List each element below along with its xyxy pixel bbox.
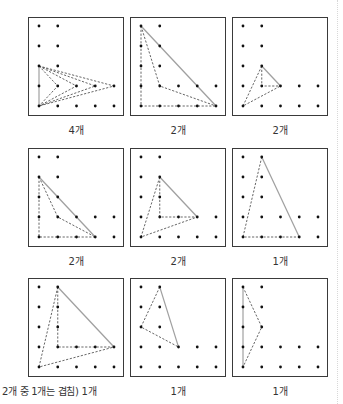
grid-dot	[260, 155, 263, 158]
grid-dot	[139, 175, 142, 178]
grid-panel-2	[130, 17, 226, 116]
grid-svg	[232, 17, 328, 116]
dashed-triangle-edges	[141, 287, 179, 347]
grid-panel-4	[28, 148, 124, 247]
grid-dot	[177, 365, 180, 368]
grid-dot	[260, 84, 263, 87]
grid-dot	[158, 195, 161, 198]
grid-dot	[37, 305, 40, 308]
dashed-triangle-edges	[141, 177, 197, 237]
grid-dot	[93, 104, 96, 107]
grid-dot	[158, 155, 161, 158]
grid-dot	[112, 235, 115, 238]
grid-dot	[297, 345, 300, 348]
grid-dot	[93, 345, 96, 348]
grid-dot	[112, 365, 115, 368]
grid-dot	[279, 104, 282, 107]
grid-dot	[297, 215, 300, 218]
grid-dot	[260, 285, 263, 288]
grid-dot	[241, 195, 244, 198]
panel-label-7: 2개 중 1개는 겹침) 1개	[2, 383, 96, 398]
grid-dot	[260, 305, 263, 308]
grid-dot	[279, 345, 282, 348]
grid-dot	[158, 84, 161, 87]
grid-dot	[93, 365, 96, 368]
grid-dot	[139, 44, 142, 47]
grid-dot	[316, 104, 319, 107]
grid-dot	[56, 305, 59, 308]
grid-dot	[195, 215, 198, 218]
grid-dot	[37, 24, 40, 27]
grid-dot	[241, 175, 244, 178]
grid-dot	[195, 104, 198, 107]
grid-dot	[56, 24, 59, 27]
grid-dot	[316, 215, 319, 218]
dashed-triangle-edges	[243, 157, 299, 237]
grid-dot	[214, 84, 217, 87]
grid-dot	[177, 235, 180, 238]
grid-dot	[112, 84, 115, 87]
grid-dot	[75, 345, 78, 348]
grid-dot	[260, 64, 263, 67]
grid-dot	[56, 44, 59, 47]
grid-dot	[260, 104, 263, 107]
grid-dot	[93, 84, 96, 87]
grid-dot	[279, 235, 282, 238]
grid-dot	[158, 345, 161, 348]
grid-dot	[158, 64, 161, 67]
grid-dot	[139, 84, 142, 87]
grid-dot	[56, 285, 59, 288]
grid-dot	[279, 365, 282, 368]
grid-dot	[37, 215, 40, 218]
panel-label-6: 1개	[273, 253, 288, 268]
grid-dot	[279, 215, 282, 218]
grid-dot	[139, 365, 142, 368]
grid-dot	[56, 345, 59, 348]
grid-dot	[75, 235, 78, 238]
grid-dot	[139, 195, 142, 198]
grid-dot	[56, 84, 59, 87]
grid-dot	[75, 215, 78, 218]
grid-dot	[260, 365, 263, 368]
grid-svg	[232, 278, 328, 377]
grid-dot	[241, 24, 244, 27]
grid-dot	[75, 84, 78, 87]
grid-dot	[139, 215, 142, 218]
grid-dot	[158, 305, 161, 308]
grid-dot	[158, 104, 161, 107]
solid-segment	[57, 287, 113, 347]
grid-dot	[279, 84, 282, 87]
grid-panel-1	[28, 17, 124, 116]
grid-dot	[158, 24, 161, 27]
grid-svg	[232, 148, 328, 247]
grid-dot	[56, 215, 59, 218]
grid-dot	[214, 365, 217, 368]
grid-dot	[241, 155, 244, 158]
grid-dot	[112, 345, 115, 348]
grid-dot	[241, 235, 244, 238]
grid-dot	[37, 175, 40, 178]
panel-label-2: 2개	[171, 122, 186, 137]
grid-dot	[158, 285, 161, 288]
panel-label-3: 2개	[273, 122, 288, 137]
grid-panel-5	[130, 148, 226, 247]
solid-segment	[141, 26, 216, 106]
grid-panel-3	[232, 17, 328, 116]
grid-dot	[139, 285, 142, 288]
grid-dot	[195, 365, 198, 368]
grid-dot	[75, 365, 78, 368]
grid-dot	[93, 215, 96, 218]
grid-dot	[297, 365, 300, 368]
grid-panel-6	[232, 148, 328, 247]
grid-dot	[158, 325, 161, 328]
grid-dot	[177, 345, 180, 348]
grid-panel-7	[28, 278, 124, 377]
grid-dot	[56, 104, 59, 107]
grid-dot	[316, 235, 319, 238]
solid-segment	[261, 157, 299, 237]
solid-segment	[261, 66, 280, 86]
grid-dot	[56, 365, 59, 368]
grid-svg	[130, 17, 226, 116]
page-edge-divider	[337, 0, 338, 404]
grid-dot	[56, 195, 59, 198]
